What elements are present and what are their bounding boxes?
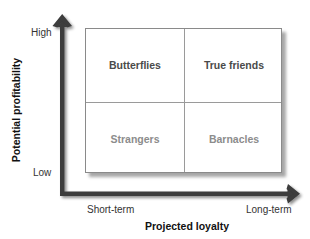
y-axis-title: Potential profitability bbox=[10, 58, 22, 162]
x-tick-long-term: Long-term bbox=[246, 204, 292, 215]
axis-arrow-group bbox=[53, 14, 301, 204]
loyalty-profitability-matrix: Butterflies True friends Strangers Barna… bbox=[0, 0, 310, 239]
y-tick-high: High bbox=[31, 27, 52, 38]
axis-shaft bbox=[60, 26, 290, 196]
y-tick-low: Low bbox=[33, 167, 51, 178]
x-tick-short-term: Short-term bbox=[87, 204, 134, 215]
x-axis-title: Projected loyalty bbox=[145, 220, 229, 232]
